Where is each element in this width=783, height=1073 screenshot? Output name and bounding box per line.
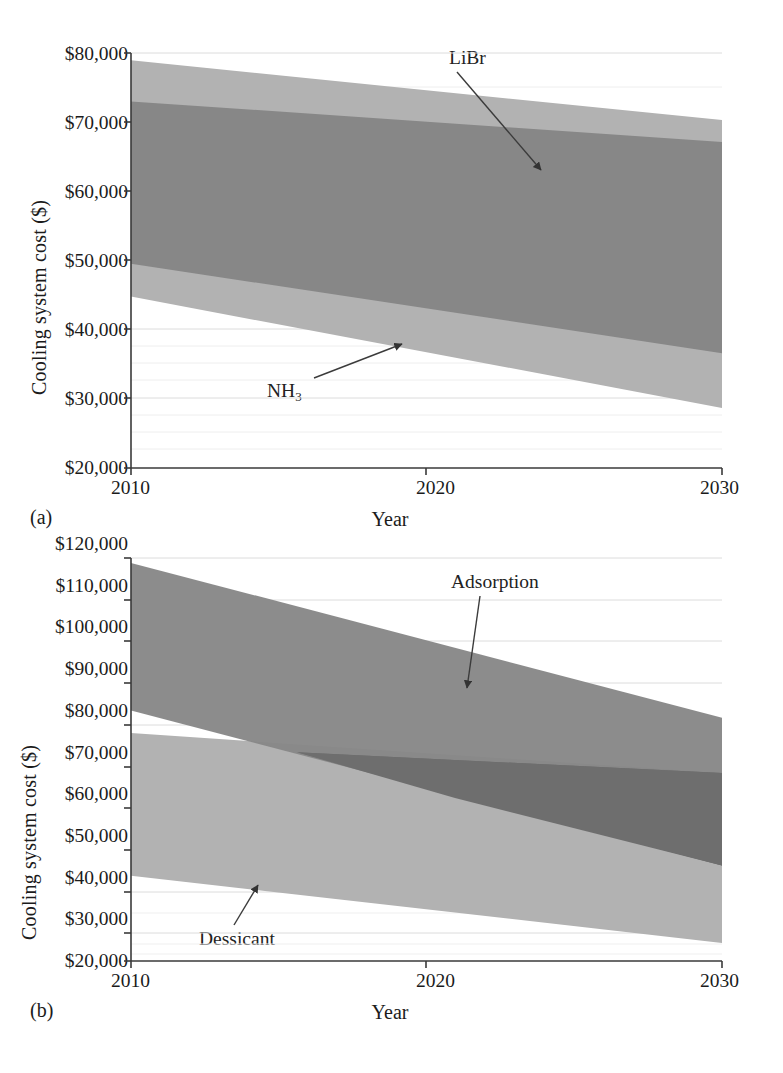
panel-b-plot [0, 540, 783, 1073]
chart-panel-a: Cooling system cost ($) $20,000 $30,000 … [0, 0, 783, 540]
panel-b-annotation-dessicant-arrow [234, 885, 258, 925]
panel-a-annotation-nh3-arrow [314, 344, 402, 378]
figure-cooling-system-cost: Cooling system cost ($) $20,000 $30,000 … [0, 0, 783, 1073]
chart-panel-b: Cooling system cost ($) $20,000 $30,000 … [0, 540, 783, 1073]
panel-a-plot [0, 0, 783, 540]
